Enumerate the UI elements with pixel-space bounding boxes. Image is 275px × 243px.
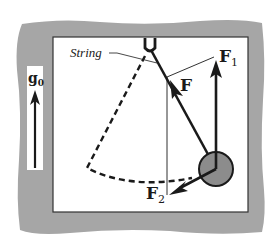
string-label: String [70,45,102,60]
force-label: F [180,75,192,95]
pendulum-diagram: g0 String F F1 F2 [0,0,275,243]
